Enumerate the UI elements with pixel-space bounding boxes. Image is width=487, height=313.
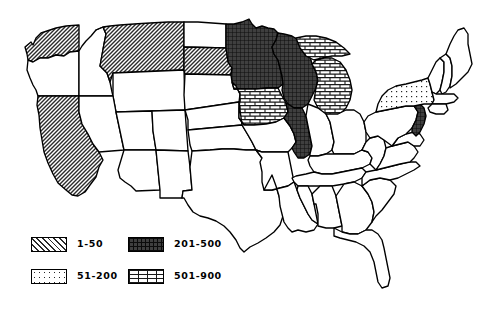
legend-swatch-501-900 — [128, 269, 164, 284]
legend-label-501-900: 501-900 — [174, 271, 222, 281]
legend-item-201-500: 201-500 — [128, 236, 222, 252]
legend-label-201-500: 201-500 — [174, 239, 222, 249]
legend-swatch-1-50 — [31, 237, 67, 252]
legend-item-51-200: 51-200 — [31, 268, 118, 284]
legend-swatch-201-500 — [128, 237, 164, 252]
state-CO — [152, 110, 188, 151]
state-ND — [184, 22, 226, 48]
legend-label-51-200: 51-200 — [77, 271, 118, 281]
legend-item-1-50: 1-50 — [31, 236, 103, 252]
legend-swatch-51-200 — [31, 269, 67, 284]
state-CT — [428, 104, 448, 114]
state-SD — [184, 47, 232, 75]
legend-label-1-50: 1-50 — [77, 239, 103, 249]
state-AZ — [118, 150, 160, 191]
legend-item-501-900: 501-900 — [128, 268, 222, 284]
state-FL — [334, 228, 390, 288]
choropleth-map-figure: 1-50 201-500 51-200 501-900 — [0, 0, 487, 313]
state-OH — [326, 110, 366, 154]
state-WY — [113, 70, 185, 112]
state-MA — [432, 92, 458, 104]
map-legend: 1-50 201-500 51-200 501-900 — [31, 236, 231, 290]
